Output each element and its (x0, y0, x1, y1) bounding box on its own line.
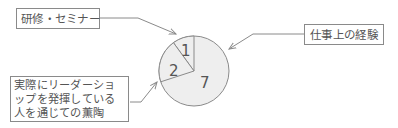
slice-value-2: 2 (169, 62, 179, 80)
callout-seminar: 研修・セミナー (16, 8, 100, 29)
slice-value-7: 7 (200, 74, 210, 92)
callout-work-experience: 仕事上の経験 (304, 24, 384, 45)
connector-mentor (130, 82, 157, 102)
connector-work (229, 34, 304, 49)
slice-value-1: 1 (181, 42, 191, 60)
callout-mentor: 実際にリーダーショップを発揮している人を通じての薫陶 (10, 76, 129, 122)
connector-seminar (100, 18, 176, 34)
